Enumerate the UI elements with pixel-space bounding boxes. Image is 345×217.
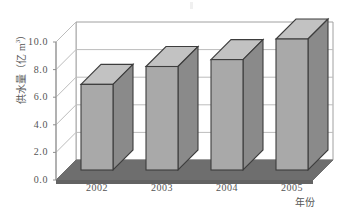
x-axis-tick-label-2003: 2003 xyxy=(135,183,189,193)
y-axis-title: 供水量（亿 m3） xyxy=(13,21,26,113)
x-axis-tick-label-2005: 2005 xyxy=(265,183,319,193)
bar-2004-front xyxy=(211,60,243,170)
bar-2003 xyxy=(146,47,198,171)
bar-2002 xyxy=(81,64,133,170)
x-axis-title: 年份 xyxy=(278,198,332,208)
bar-2004 xyxy=(211,40,263,170)
y-axis-title-suffix: ） xyxy=(16,30,27,40)
bar-2005-front xyxy=(276,39,308,170)
y-axis-title-prefix: 供水量（亿 m xyxy=(16,43,27,103)
y-axis-tick-label-2: 2.0 xyxy=(14,147,48,157)
bar-2002-front xyxy=(81,84,113,170)
bar-2005 xyxy=(276,19,328,170)
bar-2004-side xyxy=(243,40,263,170)
x-axis-tick-label-2002: 2002 xyxy=(70,183,124,193)
bar-2003-front xyxy=(146,67,178,171)
left-wall xyxy=(56,22,76,180)
bar-2003-side xyxy=(178,47,198,171)
y-axis-title-exponent: 3 xyxy=(14,40,22,44)
bar-2005-side xyxy=(308,19,328,170)
bar-chart-figure: 10.0 8.0 6.0 4.0 2.0 0.0 供水量（亿 m3） 2002 … xyxy=(0,0,345,217)
x-axis-tick-label-2004: 2004 xyxy=(200,183,254,193)
y-axis-tick-label-4: 4.0 xyxy=(14,120,48,130)
plot-area: 10.0 8.0 6.0 4.0 2.0 0.0 供水量（亿 m3） 2002 … xyxy=(0,0,345,217)
y-axis-tick-label-0: 0.0 xyxy=(14,175,48,185)
